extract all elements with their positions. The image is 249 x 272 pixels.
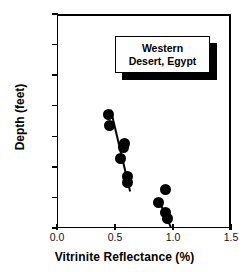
x-axis-tick-label: 1.0 <box>153 232 193 243</box>
data-point <box>160 184 171 195</box>
vitrinite-reflectance-depth-chart: 02000400060008000100001200014000 0.00.51… <box>0 0 249 272</box>
x-axis-tick-label: 0.0 <box>37 232 77 243</box>
y-axis-tick <box>52 197 58 198</box>
legend-line-2: Desert, Egypt <box>129 55 197 68</box>
y-axis-tick <box>52 74 58 75</box>
plot-frame-right <box>229 14 231 230</box>
y-axis-tick <box>52 136 58 137</box>
x-axis-tick <box>114 224 115 230</box>
y-axis-tick <box>52 44 58 45</box>
data-point <box>115 153 126 164</box>
x-axis-tick <box>56 224 57 230</box>
y-axis-tick <box>52 166 58 167</box>
x-axis-tick-label: 1.5 <box>211 232 249 243</box>
plot-frame-top <box>57 14 231 16</box>
y-axis-tick <box>52 105 58 106</box>
legend-box: Western Desert, Egypt <box>115 36 210 73</box>
legend-line-1: Western <box>142 42 183 55</box>
x-axis-tick <box>230 224 231 230</box>
data-point <box>122 177 133 188</box>
x-axis-title: Vitrinite Reflectance (%) <box>0 250 249 264</box>
y-axis-title: Depth (feet) <box>13 47 27 187</box>
x-axis-tick <box>172 224 173 230</box>
y-axis-tick <box>52 13 58 14</box>
x-axis-tick-label: 0.5 <box>95 232 135 243</box>
